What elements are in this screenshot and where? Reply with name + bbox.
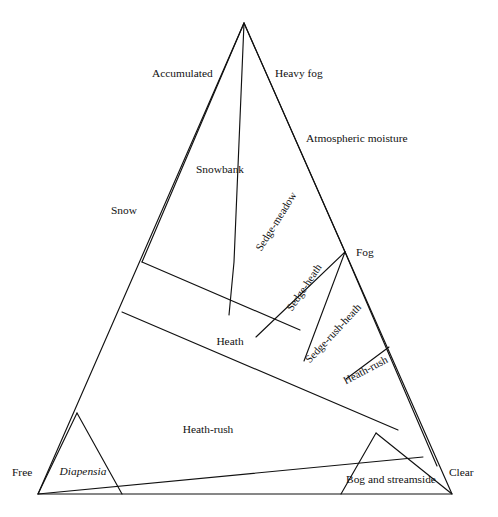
divider-snow-band-upper: [142, 262, 300, 330]
triangle-diagram-canvas: Accumulated Snow Heavy fog Atmospheric m…: [0, 0, 498, 517]
zone-label-heath: Heath: [216, 335, 244, 347]
zone-label-sedge-rush-heath: Sedge-rush-heath: [303, 301, 364, 365]
zone-label-diapensia: Diapensia: [59, 465, 107, 477]
divider-diapensia-right: [77, 413, 122, 494]
divider-bog-right: [376, 433, 452, 494]
zone-label-heath-rush-main: Heath-rush: [183, 423, 234, 435]
axis-label-accumulated: Accumulated: [152, 67, 213, 79]
zone-label-heath-rush-band: Heath-rush: [341, 353, 390, 387]
axis-label-heavy-fog: Heavy fog: [275, 67, 323, 79]
triangle-outline: [38, 23, 452, 494]
divider-diapensia-left: [38, 413, 77, 494]
divider-fog-right-descend: [345, 252, 437, 466]
corner-label-clear: Clear: [449, 466, 474, 478]
zone-label-sedge-meadow: Sedge-meadow: [253, 189, 299, 252]
divider-bog-left: [341, 433, 376, 494]
axis-label-atmospheric-moisture: Atmospheric moisture: [306, 132, 408, 144]
zone-label-sedge-heath: Sedge-heath: [284, 261, 324, 313]
axis-labels-group: Accumulated Snow Heavy fog Atmospheric m…: [12, 67, 474, 478]
divider-lines-group: [38, 23, 452, 494]
divider-apex-to-snow-left: [142, 23, 244, 262]
vegetation-triangle-diagram: Accumulated Snow Heavy fog Atmospheric m…: [0, 0, 498, 517]
axis-label-snow: Snow: [111, 204, 138, 216]
axis-label-fog: Fog: [356, 246, 374, 258]
zone-label-snowbank: Snowbank: [196, 163, 244, 175]
zone-label-bog-and-streamside: Bog and streamside: [346, 473, 436, 485]
corner-label-free: Free: [12, 466, 32, 478]
